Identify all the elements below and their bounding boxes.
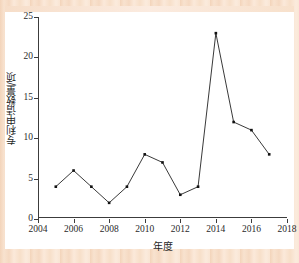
x-tick-mark xyxy=(251,219,252,223)
x-tick-mark xyxy=(216,219,217,223)
data-point-2005 xyxy=(54,185,57,188)
x-tick-mark xyxy=(145,219,146,223)
data-point-2010 xyxy=(143,153,146,156)
decorative-top-band xyxy=(5,6,294,12)
series-markers xyxy=(54,32,270,204)
data-point-2011 xyxy=(161,161,164,164)
x-tick-label: 2010 xyxy=(135,225,154,235)
y-tick-label: 0 xyxy=(28,214,33,224)
x-tick-label: 2008 xyxy=(100,225,119,235)
data-point-2008 xyxy=(108,202,111,205)
x-tick-label: 2012 xyxy=(171,225,190,235)
data-point-2009 xyxy=(126,185,129,188)
y-tick-label: 20 xyxy=(24,53,34,63)
x-tick-label: 2006 xyxy=(64,225,83,235)
data-point-2012 xyxy=(179,193,182,196)
y-tick-label: 15 xyxy=(24,93,34,103)
y-tick-label: 25 xyxy=(24,12,34,22)
data-point-2014 xyxy=(215,32,218,35)
data-series-line xyxy=(38,17,287,219)
series-polyline xyxy=(56,33,269,203)
data-point-2013 xyxy=(197,185,200,188)
x-tick-label: 2016 xyxy=(242,225,261,235)
x-tick-label: 2014 xyxy=(206,225,225,235)
data-point-2006 xyxy=(72,169,75,172)
x-tick-mark xyxy=(38,219,39,223)
plot-area: 0510152025 20042006200820102012201420162… xyxy=(38,17,286,218)
figure-root: 专利申请数量/项 0510152025 20042006200820102012… xyxy=(0,0,299,263)
x-tick-mark xyxy=(287,219,288,223)
data-point-2017 xyxy=(268,153,271,156)
x-axis-title-text: 年度 xyxy=(153,241,173,252)
y-tick-label: 5 xyxy=(28,174,33,184)
x-tick-label: 2018 xyxy=(278,225,297,235)
x-tick-label: 2004 xyxy=(29,225,48,235)
data-point-2007 xyxy=(90,185,93,188)
y-tick-label: 10 xyxy=(24,133,34,143)
data-point-2016 xyxy=(250,129,253,132)
y-axis-title: 专利申请数量/项 xyxy=(4,0,18,218)
x-tick-mark xyxy=(180,219,181,223)
x-tick-mark xyxy=(109,219,110,223)
x-axis-title: 年度 xyxy=(38,238,287,253)
data-point-2015 xyxy=(232,121,235,124)
y-axis-title-text: 专利申请数量/项 xyxy=(4,72,19,145)
x-tick-mark xyxy=(74,219,75,223)
